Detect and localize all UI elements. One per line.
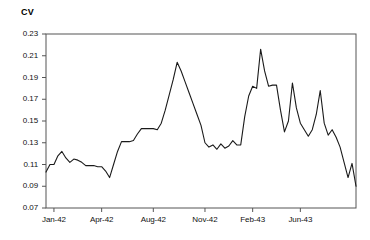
plot-area — [0, 0, 370, 240]
plot-frame — [46, 34, 356, 208]
frame-rect — [46, 34, 356, 208]
cv-line-chart: CV 0.230.210.190.170.150.130.110.090.07 … — [0, 0, 370, 240]
x-tick-marks — [54, 208, 300, 212]
cv-series-line — [46, 49, 356, 186]
y-tick-marks — [42, 34, 46, 208]
